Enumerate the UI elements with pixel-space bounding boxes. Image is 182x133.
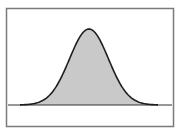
bell-curve-chart	[0, 0, 182, 133]
